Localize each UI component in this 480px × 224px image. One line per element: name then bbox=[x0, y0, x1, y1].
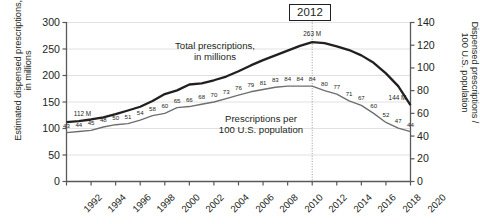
right-axis-tick-label: 80 bbox=[417, 84, 429, 96]
left-axis-tick-label: 250 bbox=[26, 43, 60, 55]
point-value-label: 76 bbox=[235, 84, 242, 91]
point-value-label: 77 bbox=[333, 83, 340, 90]
total-series-callout: 112 M bbox=[74, 110, 91, 117]
right-axis-tick-label: 60 bbox=[417, 107, 429, 119]
point-value-label: 44 bbox=[75, 121, 82, 128]
series-label-per100-line1: Prescriptions per bbox=[225, 113, 297, 124]
series-label-total-line1: Total prescriptions, bbox=[175, 40, 255, 51]
point-value-label: 47 bbox=[395, 117, 402, 124]
right-axis-tick-label: 100 bbox=[417, 61, 435, 73]
point-value-label: 84 bbox=[297, 75, 304, 82]
left-axis-tick-label: 50 bbox=[26, 149, 60, 161]
point-value-label: 84 bbox=[309, 75, 316, 82]
point-value-label: 54 bbox=[137, 109, 144, 116]
total-series-callout: 263 M bbox=[303, 30, 321, 37]
point-value-label: 45 bbox=[88, 119, 95, 126]
left-axis-tick-label: 0 bbox=[26, 175, 60, 187]
point-value-label: 60 bbox=[370, 102, 377, 109]
point-value-label: 71 bbox=[346, 90, 353, 97]
point-value-label: 66 bbox=[186, 96, 193, 103]
point-value-label: 60 bbox=[161, 102, 168, 109]
point-value-label: 68 bbox=[198, 93, 205, 100]
point-value-label: 51 bbox=[125, 113, 132, 120]
year-marker-badge: 2012 bbox=[289, 4, 331, 21]
total-series-callout: 144 M bbox=[389, 94, 407, 101]
point-value-label: 83 bbox=[272, 76, 279, 83]
point-value-label: 79 bbox=[247, 81, 254, 88]
point-value-label: 84 bbox=[284, 75, 291, 82]
right-axis-tick-label: 40 bbox=[417, 130, 429, 142]
left-axis-tick-label: 200 bbox=[26, 69, 60, 81]
left-axis-tick-label: 100 bbox=[26, 122, 60, 134]
series-label-per100-line2: 100 U.S. population bbox=[219, 124, 303, 135]
point-value-label: 52 bbox=[383, 111, 390, 118]
left-axis-tick-label: 150 bbox=[26, 96, 60, 108]
point-value-label: 81 bbox=[260, 79, 267, 86]
right-axis-tick-label: 0 bbox=[417, 175, 423, 187]
point-value-label: 44 bbox=[407, 121, 414, 128]
right-axis-tick-label: 120 bbox=[417, 39, 435, 51]
point-value-label: 50 bbox=[112, 114, 119, 121]
series-label-total-line2: in millions bbox=[194, 51, 236, 62]
right-axis-tick-label: 20 bbox=[417, 152, 429, 164]
series-label-per100: Prescriptions per 100 U.S. population bbox=[196, 113, 326, 135]
point-value-label: 58 bbox=[149, 105, 156, 112]
series-label-total: Total prescriptions, in millions bbox=[150, 40, 280, 62]
left-axis-tick-label: 300 bbox=[26, 16, 60, 28]
point-value-label: 70 bbox=[211, 91, 218, 98]
point-value-label: 48 bbox=[100, 116, 107, 123]
point-value-label: 65 bbox=[174, 97, 181, 104]
point-value-label: 73 bbox=[223, 88, 230, 95]
point-value-label: 80 bbox=[321, 80, 328, 87]
point-value-label: 43 bbox=[63, 122, 70, 129]
right-axis-tick-label: 140 bbox=[417, 16, 435, 28]
point-value-label: 67 bbox=[358, 94, 365, 101]
